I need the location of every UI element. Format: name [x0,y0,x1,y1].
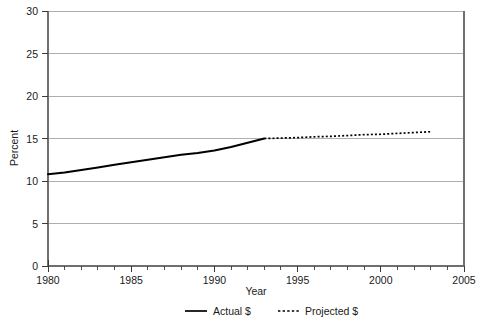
legend-label-projected: Projected $ [305,305,358,317]
series-line-projected [264,132,430,139]
x-minor-ticks [65,266,448,270]
y-tick-marks [42,11,48,266]
x-axis-title: Year [245,285,267,297]
y-tick-label-0: 0 [32,260,38,272]
legend-label-actual: Actual $ [213,305,251,317]
y-tick-label-15: 15 [26,133,38,145]
x-tick-label-1985: 1985 [120,274,144,286]
y-tick-label-30: 30 [26,5,38,17]
y-tick-label-20: 20 [26,90,38,102]
y-tick-label-25: 25 [26,48,38,60]
x-tick-label-1990: 1990 [203,274,227,286]
y-axis-title: Percent [8,130,20,166]
x-tick-label-2000: 2000 [369,274,393,286]
x-tick-label-2005: 2005 [452,274,476,286]
line-chart: 30 25 20 15 10 5 0 Percent [0,0,492,326]
gridlines [48,11,464,224]
chart-figure: 30 25 20 15 10 5 0 Percent [0,0,492,326]
y-tick-label-5: 5 [32,218,38,230]
x-tick-label-1980: 1980 [36,274,60,286]
y-tick-label-10: 10 [26,175,38,187]
chart-legend: Actual $ Projected $ [185,305,358,317]
series-line-actual [48,139,264,175]
x-tick-label-1995: 1995 [286,274,310,286]
y-tick-labels: 30 25 20 15 10 5 0 [26,5,38,272]
